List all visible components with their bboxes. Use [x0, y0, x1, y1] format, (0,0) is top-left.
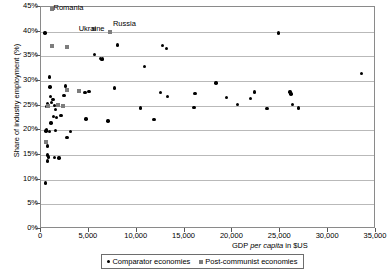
x-axis-title-italic: per capita — [250, 241, 283, 250]
legend-item-comparator: Comparator economies — [107, 257, 190, 266]
data-point — [44, 140, 48, 144]
legend-label-postcommunist: Post-communist economies — [205, 257, 297, 266]
data-point — [159, 91, 162, 94]
data-point — [59, 114, 62, 117]
x-axis-tick-mark — [40, 228, 41, 232]
data-point — [193, 92, 196, 95]
data-point — [54, 108, 57, 111]
data-point — [49, 121, 52, 124]
data-point — [87, 90, 90, 93]
x-axis-title-prefix: GDP — [232, 241, 250, 250]
point-annotation: Russia — [113, 20, 136, 28]
x-axis-tick-label: 35,000 — [364, 231, 387, 240]
data-point — [113, 86, 116, 89]
data-point — [65, 45, 69, 49]
circle-marker-icon — [107, 260, 110, 263]
x-axis-tick-label: 15,000 — [172, 231, 195, 240]
data-point — [46, 144, 49, 147]
data-point — [360, 72, 363, 75]
data-point — [65, 136, 68, 139]
data-point — [225, 96, 228, 99]
data-point — [62, 94, 65, 97]
scatter-chart: 0%5%10%15%20%25%30%35%40%45% Share of in… — [0, 0, 388, 276]
data-point — [61, 104, 65, 108]
x-axis-tick-label: 30,000 — [316, 231, 339, 240]
x-axis-tick-mark — [279, 228, 280, 232]
gridline-horizontal — [41, 204, 374, 205]
data-point — [192, 106, 195, 109]
plot-area — [40, 6, 375, 228]
data-point — [48, 130, 51, 133]
x-axis-tick-label: 5,000 — [78, 231, 97, 240]
x-axis-tick-label: 25,000 — [268, 231, 291, 240]
data-point — [53, 156, 56, 159]
data-point — [50, 44, 54, 48]
x-axis-title: GDP per capita in $US — [232, 241, 308, 250]
data-point — [65, 88, 69, 92]
x-axis-tick-mark — [327, 228, 328, 232]
legend-item-postcommunist: Post-communist economies — [199, 257, 297, 266]
data-point — [152, 118, 155, 121]
x-axis-tick-label: 20,000 — [220, 231, 243, 240]
point-annotation: Romania — [54, 4, 84, 12]
data-point — [106, 119, 109, 122]
data-point — [77, 89, 81, 93]
data-point — [253, 90, 256, 93]
data-point — [139, 106, 142, 109]
x-axis-tick-mark — [136, 228, 137, 232]
x-axis-tick-label: 0 — [38, 231, 42, 240]
data-point — [54, 129, 57, 132]
data-point — [55, 116, 58, 119]
y-axis-title: Share of industry employment (%) — [12, 21, 21, 181]
data-point — [57, 156, 60, 159]
data-point — [108, 30, 112, 34]
data-point — [214, 81, 217, 84]
data-point — [44, 181, 47, 184]
x-axis-title-suffix: in $US — [283, 241, 308, 250]
gridline-horizontal — [41, 180, 374, 181]
square-marker-icon — [199, 260, 203, 264]
y-axis-tick-label: 0% — [2, 224, 38, 232]
x-axis-tick-mark — [231, 228, 232, 232]
gridline-horizontal — [41, 81, 374, 82]
data-point — [165, 47, 168, 50]
data-point — [116, 43, 119, 46]
gridline-horizontal — [41, 56, 374, 57]
data-point — [249, 97, 252, 100]
data-point — [51, 98, 54, 101]
y-axis-tick-label: 45% — [2, 2, 38, 10]
data-point — [277, 31, 280, 34]
data-point — [143, 65, 146, 68]
x-axis-tick-mark — [184, 228, 185, 232]
data-point — [166, 95, 169, 98]
y-axis-tick-label: 5% — [2, 199, 38, 207]
data-point — [100, 58, 103, 61]
legend-label-comparator: Comparator economies — [112, 257, 190, 266]
data-point — [48, 85, 51, 88]
x-axis-tick-mark — [88, 228, 89, 232]
data-point — [46, 159, 49, 162]
data-point — [47, 155, 50, 158]
data-point — [48, 75, 51, 78]
data-point — [297, 106, 300, 109]
data-point — [43, 31, 46, 34]
gridline-horizontal — [41, 155, 374, 156]
data-point — [46, 104, 50, 108]
x-axis-tick-label: 10,000 — [124, 231, 147, 240]
chart-legend: Comparator economies Post-communist econ… — [101, 254, 304, 269]
data-point — [56, 103, 60, 107]
data-point — [69, 130, 72, 133]
x-axis-tick-mark — [375, 228, 376, 232]
data-point — [289, 92, 292, 95]
data-point — [265, 107, 268, 110]
gridline-horizontal — [41, 106, 374, 107]
point-annotation: Ukraine — [79, 25, 105, 33]
data-point — [84, 117, 87, 120]
gridline-horizontal — [41, 130, 374, 131]
data-point — [161, 44, 164, 47]
